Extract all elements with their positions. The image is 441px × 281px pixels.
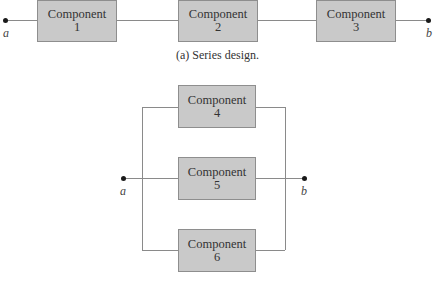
parallel-node-a-label: a: [120, 184, 126, 199]
parallel-left-branch-top: [142, 107, 178, 108]
series-component-3: Component 3: [316, 0, 396, 42]
series-component-1: Component 1: [37, 0, 117, 42]
component-number: 5: [214, 179, 220, 192]
component-number: 4: [214, 107, 220, 120]
component-number: 3: [353, 21, 359, 34]
series-terminal-b: [426, 18, 431, 23]
parallel-right-branch-bottom: [255, 250, 285, 251]
component-number: 1: [74, 21, 80, 34]
component-number: 6: [214, 251, 220, 264]
series-node-b-label: b: [426, 26, 432, 41]
series-caption: (a) Series design.: [176, 48, 259, 63]
component-name: Component: [188, 94, 246, 107]
parallel-left-branch-bottom: [142, 250, 178, 251]
component-number: 2: [215, 21, 221, 34]
parallel-component-5: Component 5: [178, 157, 256, 200]
parallel-terminal-b: [302, 176, 307, 181]
series-node-a-label: a: [3, 26, 9, 41]
parallel-terminal-a: [121, 176, 126, 181]
parallel-node-b-label: b: [301, 184, 307, 199]
parallel-component-6: Component 6: [178, 229, 256, 272]
parallel-component-4: Component 4: [178, 85, 256, 128]
parallel-right-branch-top: [255, 107, 285, 108]
component-name: Component: [188, 238, 246, 251]
component-name: Component: [188, 166, 246, 179]
series-component-2: Component 2: [178, 0, 258, 42]
parallel-right-bus: [285, 107, 286, 250]
parallel-input-wire: [123, 178, 178, 179]
parallel-left-bus: [142, 107, 143, 250]
series-terminal-a: [3, 18, 8, 23]
parallel-output-wire: [255, 178, 304, 179]
